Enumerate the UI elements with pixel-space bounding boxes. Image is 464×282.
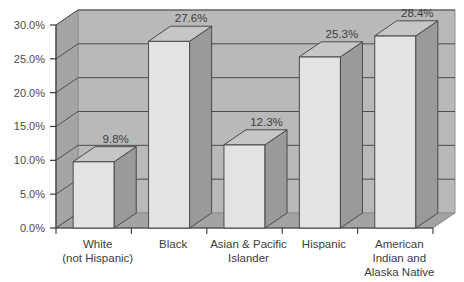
chart-container: 0.0%5.0%10.0%15.0%20.0%25.0%30.0% White(… bbox=[0, 0, 464, 282]
bar-side-face bbox=[265, 130, 287, 228]
x-axis-tick-label: Hispanic bbox=[302, 238, 346, 250]
bar-value-label: 27.6% bbox=[175, 12, 208, 24]
x-axis-tick-label: Asian & PacificIslander bbox=[210, 238, 287, 264]
x-axis-tick-label: Black bbox=[159, 238, 187, 250]
bar-column bbox=[299, 42, 362, 228]
x-axis-tick-labels: White(not Hispanic)BlackAsian & PacificI… bbox=[62, 238, 434, 278]
bar-value-label: 9.8% bbox=[103, 133, 129, 145]
bar-column bbox=[73, 147, 136, 228]
bar-column bbox=[149, 26, 212, 228]
x-axis-tick-label: White(not Hispanic) bbox=[62, 238, 133, 264]
bar-side-face bbox=[340, 42, 362, 228]
y-axis-tick-label: 15.0% bbox=[14, 120, 45, 132]
bar-value-label: 12.3% bbox=[250, 116, 283, 128]
x-axis-tick-label: AmericanIndian andAlaska Native bbox=[364, 238, 434, 278]
bar-front-face bbox=[224, 145, 265, 228]
y-axis-tick-label: 20.0% bbox=[14, 87, 45, 99]
y-axis-tick-label: 10.0% bbox=[14, 154, 45, 166]
bar-front-face bbox=[73, 162, 114, 228]
bar-value-label: 28.4% bbox=[401, 7, 434, 19]
bar-chart-3d: 0.0%5.0%10.0%15.0%20.0%25.0%30.0% White(… bbox=[0, 0, 464, 282]
bar-side-face bbox=[190, 26, 212, 228]
bar-front-face bbox=[149, 41, 190, 228]
x-axis-ticks bbox=[56, 228, 433, 234]
bar-column bbox=[224, 130, 287, 228]
bar-front-face bbox=[375, 36, 416, 228]
y-axis-tick-label: 25.0% bbox=[14, 53, 45, 65]
bar-column bbox=[375, 21, 438, 228]
bar-value-label: 25.3% bbox=[326, 28, 359, 40]
bar-front-face bbox=[299, 57, 340, 228]
y-axis-tick-label: 30.0% bbox=[14, 19, 45, 31]
bar-side-face bbox=[416, 21, 438, 228]
y-axis-tick-label: 5.0% bbox=[20, 188, 45, 200]
y-axis-tick-label: 0.0% bbox=[20, 222, 45, 234]
y-axis-tick-labels: 0.0%5.0%10.0%15.0%20.0%25.0%30.0% bbox=[14, 19, 45, 234]
